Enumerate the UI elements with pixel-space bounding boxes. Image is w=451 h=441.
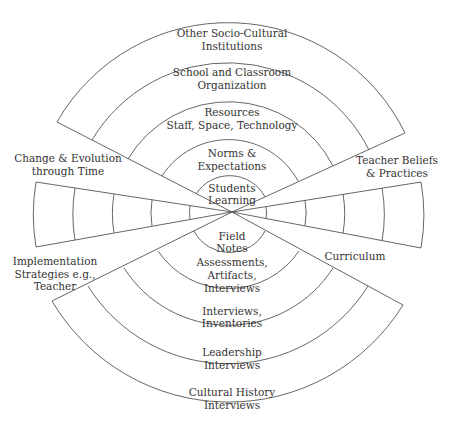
left-segment-5-arc xyxy=(33,182,36,247)
bottom-ring-3-label-2: Inventories xyxy=(202,317,262,329)
concentric-wedge-diagram: Other Socio-Cultural Institutions School… xyxy=(0,0,451,441)
bottom-ring-1-label-2: Notes xyxy=(216,242,247,254)
bottom-ring-5-label-2: Interviews xyxy=(204,399,260,411)
top-ring-2-label-2: Expectations xyxy=(198,160,267,172)
bottom-ring-2-label-1: Assessments, xyxy=(195,256,267,268)
bottom-ring-2-label-2: Artifacts, xyxy=(206,269,256,281)
label-implementation-1: Implementation xyxy=(13,255,98,267)
top-ring-2-label-1: Norms & xyxy=(208,147,257,159)
top-ring-4-label-1: School and Classroom xyxy=(173,66,291,78)
bottom-ring-4-label-2: Interviews xyxy=(204,359,260,371)
bottom-ring-1-label-1: Field xyxy=(219,230,246,242)
label-change-evolution-2: through Time xyxy=(32,165,104,177)
left-segment-3-arc xyxy=(112,194,114,233)
bottom-ring-5-label-1: Cultural History xyxy=(189,386,276,398)
label-implementation-2: Strategies e.g., xyxy=(14,268,95,280)
right-segment-5-arc xyxy=(421,182,424,248)
left-wedge xyxy=(33,182,232,247)
right-segment-2-arc xyxy=(305,200,306,226)
right-segment-1-arc xyxy=(266,207,267,219)
bottom-ring-4-label-1: Leadership xyxy=(202,346,262,358)
top-ring-5-label-2: Institutions xyxy=(202,40,263,52)
top-ring-1-label-1: Students xyxy=(208,182,255,194)
right-wedge-top-edge xyxy=(232,182,421,212)
top-wedge-labels: Other Socio-Cultural Institutions School… xyxy=(167,27,298,206)
bottom-ring-3-label-1: Interviews, xyxy=(202,305,262,317)
label-teacher-beliefs-1: Teacher Beliefs xyxy=(356,154,438,166)
label-curriculum: Curriculum xyxy=(325,250,386,262)
left-segment-4-arc xyxy=(73,188,75,240)
top-ring-5-label-1: Other Socio-Cultural xyxy=(177,27,288,39)
top-ring-3-label-1: Resources xyxy=(204,106,259,118)
right-segment-3-arc xyxy=(343,194,345,233)
right-wedge-bottom-edge xyxy=(232,212,421,248)
label-teacher-beliefs-2: & Practices xyxy=(366,167,428,179)
label-change-evolution-1: Change & Evolution xyxy=(14,152,122,164)
top-ring-3-label-2: Staff, Space, Technology xyxy=(167,119,298,131)
label-implementation-3: Teacher xyxy=(34,280,78,292)
right-segment-4-arc xyxy=(382,188,384,241)
top-ring-4-label-2: Organization xyxy=(197,79,266,91)
left-segment-2-arc xyxy=(151,200,152,226)
top-ring-1-label-2: Learning xyxy=(208,194,256,206)
bottom-ring-2-label-3: Interviews xyxy=(204,282,260,294)
